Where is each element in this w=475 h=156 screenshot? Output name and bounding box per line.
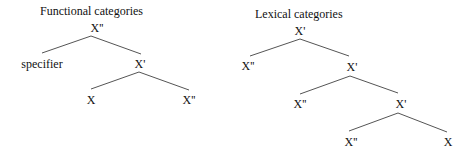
- lexical-adjunct1-node: X'': [242, 60, 255, 72]
- branch-bar-head: [91, 72, 139, 89]
- lexical-complement-node: X'': [345, 136, 358, 148]
- functional-bar-node: X': [135, 58, 146, 70]
- branch-bar-complement: [139, 72, 189, 90]
- branch-root-specifier: [42, 36, 91, 53]
- tree-branches: [0, 0, 475, 156]
- lexical-root-node: X': [295, 25, 306, 37]
- functional-head-node: X: [87, 94, 96, 106]
- branch-root-adjunct1: [250, 39, 300, 56]
- lexical-bar2-node: X': [396, 98, 407, 110]
- lexical-tree-title: Lexical categories: [255, 8, 343, 20]
- branch-bar2-complement: [349, 113, 398, 131]
- branch-bar1-adjunct2: [300, 76, 350, 94]
- branch-bar1-bar2: [350, 76, 398, 93]
- lexical-bar1-node: X': [347, 61, 358, 73]
- lexical-adjunct2-node: X'': [294, 98, 307, 110]
- branch-bar2-head: [398, 113, 447, 132]
- branch-root-bar1: [300, 39, 349, 56]
- functional-complement-node: X'': [183, 94, 196, 106]
- functional-root-node: X'': [91, 22, 104, 34]
- functional-specifier-node: specifier: [21, 58, 62, 70]
- lexical-head-node: X: [444, 136, 453, 148]
- branch-root-bar: [91, 36, 141, 54]
- functional-tree-title: Functional categories: [40, 5, 143, 17]
